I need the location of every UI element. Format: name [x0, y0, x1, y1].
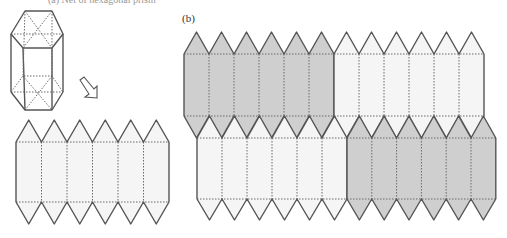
- diagram-canvas: [0, 0, 507, 238]
- fold-line: [23, 11, 52, 48]
- prism-nets: [16, 32, 496, 224]
- fold-line: [25, 76, 52, 110]
- bottom-hexagon-edge: [11, 92, 63, 110]
- bottom-triangles-edge: [16, 202, 169, 224]
- bottom-hexagon-hidden-edge: [11, 76, 63, 92]
- top-hexagon-face: [11, 11, 63, 48]
- bottom-triangles-edge: [347, 199, 496, 220]
- bottom-triangles-edge: [197, 199, 347, 220]
- down-right-arrow-icon: [80, 77, 97, 98]
- left-net: [16, 120, 169, 224]
- arrow-shape: [80, 77, 97, 98]
- top-triangles-edge: [184, 32, 334, 54]
- hexagonal-prism-3d: [11, 11, 63, 110]
- top-triangles-edge: [334, 32, 484, 54]
- top-triangles-edge: [16, 120, 169, 142]
